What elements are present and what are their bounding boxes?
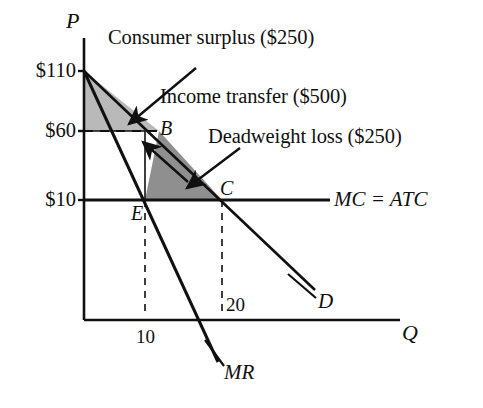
monopoly-welfare-figure: P Q $110 $60 $10 10 20 Consumer surplus …	[0, 0, 483, 408]
price-tick-10: $10	[8, 189, 76, 210]
income-transfer-region	[84, 131, 145, 200]
quantity-tick-10: 10	[136, 327, 155, 346]
mc-atc-curve-label: MC = ATC	[334, 189, 428, 210]
point-e-label: E	[131, 203, 143, 223]
deadweight-loss-annotation: Deadweight loss ($250)	[208, 126, 402, 147]
point-b-label: B	[160, 118, 172, 138]
price-axis-label: P	[66, 10, 79, 32]
marginal-revenue-curve-label: MR	[224, 362, 254, 383]
price-tick-110: $110	[8, 60, 76, 81]
point-c-label: C	[220, 178, 233, 198]
consumer-surplus-annotation: Consumer surplus ($250)	[108, 27, 314, 48]
quantity-tick-20: 20	[226, 295, 245, 314]
marginal-revenue-curve	[84, 71, 218, 362]
price-tick-60: $60	[8, 120, 76, 141]
mr-label-leader	[205, 340, 224, 366]
income-transfer-annotation: Income transfer ($500)	[160, 86, 347, 107]
quantity-axis-label: Q	[402, 322, 418, 344]
demand-curve-label: D	[318, 291, 333, 312]
